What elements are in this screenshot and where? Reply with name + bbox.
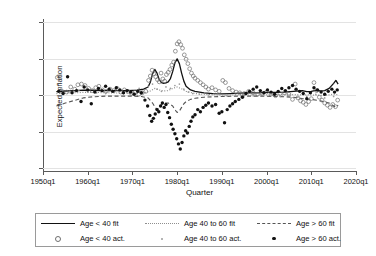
data-point	[166, 111, 169, 114]
filled-dot-icon	[252, 237, 296, 240]
data-point	[165, 86, 167, 88]
data-point	[277, 90, 280, 93]
dotted-line-icon	[140, 223, 184, 224]
data-point	[168, 116, 171, 119]
legend-item-dotted-line[interactable]: Age 40 to 60 fit	[140, 216, 252, 231]
data-point	[80, 82, 84, 86]
data-point	[291, 84, 294, 87]
x-tick-label: 1970q1	[120, 177, 145, 186]
x-tick-mark	[177, 171, 178, 175]
data-point	[148, 114, 151, 117]
data-point	[86, 88, 89, 91]
legend-label: Age < 40 act.	[80, 234, 125, 243]
y-axis-title: Expected Inflation	[55, 37, 64, 157]
data-point	[186, 131, 189, 134]
data-point	[181, 46, 185, 50]
data-point	[150, 120, 153, 123]
plot-area: .02.010-.01-.02 Expected Inflation	[43, 22, 356, 168]
small-dot-icon	[140, 238, 184, 240]
data-point	[284, 89, 287, 92]
data-point	[288, 94, 290, 96]
x-tick-label: 2020q1	[343, 177, 368, 186]
data-point	[269, 90, 272, 93]
data-point	[305, 97, 308, 100]
data-point	[140, 91, 143, 94]
data-point	[122, 91, 125, 94]
series-open-circle-marker	[55, 40, 339, 110]
series-filled-dot-marker	[57, 75, 339, 151]
data-point	[262, 91, 265, 94]
data-point	[183, 88, 185, 90]
data-point	[161, 91, 163, 93]
legend-label: Age 40 to 60 fit	[184, 219, 235, 228]
data-point	[125, 89, 128, 92]
y-tick-mark	[39, 168, 43, 169]
data-point	[224, 81, 228, 85]
data-point	[204, 104, 207, 107]
data-point	[154, 112, 157, 115]
data-point	[164, 103, 167, 106]
data-point	[174, 85, 176, 87]
data-point	[152, 83, 154, 85]
x-tick-label: 1990q1	[209, 177, 234, 186]
data-point	[225, 95, 227, 97]
data-point	[302, 92, 305, 95]
data-point	[118, 88, 121, 91]
x-tick-mark	[356, 171, 357, 175]
data-point	[199, 110, 202, 113]
legend-item-dashed-line[interactable]: Age > 60 fit	[252, 216, 340, 231]
data-point	[237, 98, 240, 101]
data-point	[273, 93, 276, 96]
data-point	[261, 94, 263, 96]
data-point	[93, 90, 96, 93]
data-point	[76, 83, 80, 87]
data-point	[323, 93, 326, 96]
data-point	[309, 97, 313, 101]
x-tick-mark	[132, 171, 133, 175]
dashed-line-icon	[252, 223, 296, 224]
data-point	[147, 79, 151, 83]
gridline	[43, 168, 356, 169]
data-point	[69, 91, 71, 93]
data-point	[79, 100, 82, 103]
data-point	[188, 125, 191, 128]
data-point	[162, 106, 165, 109]
legend-label: Age 40 to 60 act.	[184, 234, 241, 243]
legend-item-small-dot[interactable]: Age 40 to 60 act.	[140, 231, 252, 246]
data-point	[327, 90, 330, 93]
x-tick-label: 2010q1	[299, 177, 324, 186]
legend-item-filled-dot[interactable]: Age > 60 act.	[252, 231, 340, 246]
data-point	[214, 103, 217, 106]
legend-item-solid-line[interactable]: Age < 40 fit	[36, 216, 140, 231]
data-point	[188, 67, 192, 71]
x-tick-label: 1980q1	[165, 177, 190, 186]
data-point	[316, 88, 319, 91]
data-point	[146, 104, 149, 107]
data-point	[152, 117, 155, 120]
data-point	[210, 86, 214, 90]
data-point	[217, 93, 219, 95]
data-point	[150, 68, 154, 72]
data-point	[179, 147, 182, 150]
data-point	[177, 142, 180, 145]
series-layer	[43, 22, 356, 168]
data-point	[186, 62, 190, 66]
data-point	[217, 89, 221, 93]
legend-row: Age < 40 act.Age 40 to 60 act.Age > 60 a…	[36, 231, 340, 246]
data-point	[82, 85, 85, 88]
data-point	[330, 87, 333, 90]
data-point	[69, 85, 73, 89]
data-point	[189, 120, 192, 123]
legend-item-open-circle[interactable]: Age < 40 act.	[36, 231, 140, 246]
data-point	[234, 100, 237, 103]
chart-legend: Age < 40 fitAge 40 to 60 fitAge > 60 fit…	[35, 213, 341, 247]
data-point	[234, 94, 236, 96]
data-point	[199, 93, 201, 95]
data-point	[196, 108, 199, 111]
data-point	[287, 86, 290, 89]
legend-label: Age < 40 fit	[80, 219, 119, 228]
data-point	[75, 89, 78, 92]
x-tick-mark	[43, 171, 44, 175]
data-point	[179, 43, 183, 47]
data-point	[251, 87, 254, 90]
